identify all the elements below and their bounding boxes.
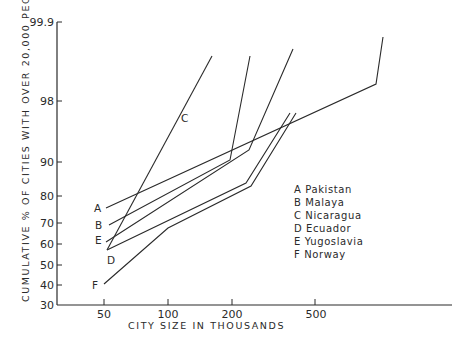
- x-axis-title: CITY SIZE IN THOUSANDS: [128, 320, 285, 331]
- y-tick-30: 30: [40, 299, 54, 312]
- y-tick-99.9: 99.9: [30, 16, 55, 29]
- series-d-ecuador: [107, 113, 290, 250]
- y-tick-labels: 99.9 98 90 80 70 60 50 40 30: [30, 16, 55, 312]
- legend-item-nicaragua: C Nicaragua: [294, 210, 362, 221]
- y-tick-98: 98: [40, 95, 54, 108]
- y-tick-40: 40: [40, 279, 54, 292]
- y-tick-70: 70: [40, 217, 54, 230]
- series-labels: A B C D E F: [92, 112, 188, 291]
- y-tick-50: 50: [40, 259, 54, 272]
- series-a-pakistan: [106, 37, 383, 208]
- series-label-c: C: [181, 112, 188, 124]
- chart: 99.9 98 90 80 70 60 50 40 30 50 100 200 …: [0, 0, 467, 338]
- y-axis-title: CUMULATIVE % OF CITIES WITH OVER 20,000 …: [20, 0, 31, 302]
- y-tick-60: 60: [40, 238, 54, 251]
- legend-item-malaya: B Malaya: [294, 197, 345, 208]
- y-tick-90: 90: [40, 156, 54, 169]
- legend-item-ecuador: D Ecuador: [294, 223, 351, 234]
- series-b-malaya: [109, 56, 250, 225]
- legend-item-pakistan: A Pakistan: [294, 184, 352, 195]
- y-tick-80: 80: [40, 190, 54, 203]
- series-f-norway: [104, 113, 296, 284]
- series-label-a: A: [94, 202, 102, 214]
- series-label-b: B: [95, 219, 102, 231]
- y-ticks: [57, 22, 62, 285]
- x-ticks: [104, 299, 315, 305]
- series-label-f: F: [92, 279, 98, 291]
- legend: A Pakistan B Malaya C Nicaragua D Ecuado…: [294, 184, 363, 260]
- x-tick-500: 500: [306, 308, 327, 321]
- legend-item-norway: F Norway: [294, 249, 346, 260]
- series-label-d: D: [107, 254, 115, 266]
- series-label-e: E: [95, 234, 102, 246]
- series-c-nicaragua: [107, 56, 212, 250]
- legend-item-yugoslavia: E Yugoslavia: [294, 236, 363, 247]
- x-tick-50: 50: [97, 308, 111, 321]
